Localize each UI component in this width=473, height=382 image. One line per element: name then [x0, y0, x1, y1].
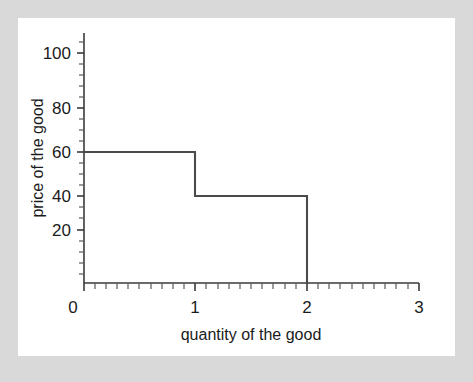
x-tick-label-2: 2 — [302, 298, 311, 317]
y-tick-label-60: 60 — [52, 143, 71, 162]
x-tick-label-3: 3 — [414, 298, 423, 317]
x-tick-label-0: 0 — [68, 298, 77, 317]
x-axis — [84, 283, 419, 291]
figure-frame: 20 40 60 80 100 0 1 2 3 quantity of the … — [0, 0, 473, 382]
demand-step-line — [84, 152, 307, 283]
x-axis-title: quantity of the good — [181, 326, 322, 343]
x-tick-label-1: 1 — [190, 298, 199, 317]
y-axis-title: price of the good — [29, 98, 46, 217]
y-tick-label-100: 100 — [43, 44, 71, 63]
x-minor-ticks — [95, 283, 408, 289]
chart-plot-card: 20 40 60 80 100 0 1 2 3 quantity of the … — [18, 18, 455, 356]
y-axis — [77, 33, 84, 283]
y-tick-label-80: 80 — [52, 99, 71, 118]
step-chart: 20 40 60 80 100 0 1 2 3 quantity of the … — [18, 18, 455, 356]
y-tick-label-40: 40 — [52, 187, 71, 206]
y-tick-label-20: 20 — [52, 221, 71, 240]
